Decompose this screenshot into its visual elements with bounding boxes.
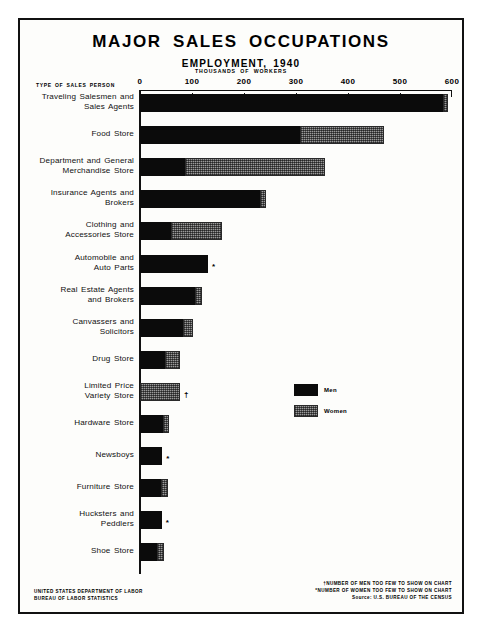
footnotes: †NUMBER OF MEN TOO FEW TO SHOW ON CHART … [315, 581, 452, 602]
bar-footnote-marker: * [166, 519, 169, 527]
bar-segment-men [140, 287, 195, 305]
bar-segment-men [140, 255, 208, 273]
bar-segment-men [140, 222, 171, 240]
bar-footnote-marker: * [166, 455, 169, 463]
category-label-line: Furniture Store [24, 482, 134, 492]
bar-segment-men [140, 126, 300, 144]
category-label: Insurance Agents andBrokers [24, 188, 134, 208]
bar-segment-men [140, 415, 163, 433]
category-label-line: Real Estate Agents [24, 285, 134, 295]
bar-segment-women [157, 543, 164, 561]
category-label-line: Hucksters and [24, 509, 134, 519]
category-label-line: Merchandise Store [24, 166, 134, 176]
bar-segment-men [140, 190, 260, 208]
bar-segment-men [140, 94, 443, 112]
bar-footnote-marker: * [212, 263, 215, 271]
category-label: Food Store [24, 129, 134, 139]
category-label: Hucksters andPeddlers [24, 509, 134, 529]
category-label: Clothing andAccessories Store [24, 220, 134, 240]
agency-line-2: BUREAU OF LABOR STATISTICS [34, 596, 143, 602]
category-label-line: Solicitors [24, 327, 134, 337]
category-label: Department and GeneralMerchandise Store [24, 156, 134, 176]
bar-footnote-marker: † [184, 391, 188, 399]
bar-segment-women [171, 222, 221, 240]
agency-line-1: UNITED STATES DEPARTMENT OF LABOR [34, 589, 143, 595]
bar-segment-women [165, 351, 180, 369]
bar-segment-women [185, 158, 324, 176]
category-label: Traveling Salesmen andSales Agents [24, 92, 134, 112]
bar-segment-men [140, 447, 162, 465]
bar-segment-women [260, 190, 266, 208]
category-label-line: and Brokers [24, 295, 134, 305]
category-label-line: Peddlers [24, 519, 134, 529]
category-label-line: Food Store [24, 129, 134, 139]
category-label-line: Accessories Store [24, 230, 134, 240]
bar-segment-women [163, 415, 168, 433]
category-label-line: Automobile and [24, 253, 134, 263]
bar-segment-men [140, 351, 165, 369]
bar-segment-men [140, 511, 162, 529]
source-note: Source: U.S. BUREAU OF THE CENSUS [315, 594, 452, 602]
category-label: Canvassers andSolicitors [24, 317, 134, 337]
legend-swatch-women [294, 405, 318, 417]
category-label-line: Canvassers and [24, 317, 134, 327]
footnote-dagger: †NUMBER OF MEN TOO FEW TO SHOW ON CHART [315, 581, 452, 588]
category-label: Newsboys [24, 450, 134, 460]
category-label-line: Hardware Store [24, 418, 134, 428]
category-label: Limited PriceVariety Store [24, 381, 134, 401]
bar-segment-women [195, 287, 202, 305]
bar-segment-men [140, 543, 157, 561]
legend-label-men: Men [324, 387, 337, 393]
chart-poster: MAJOR SALES OCCUPATIONS EMPLOYMENT, 1940… [18, 18, 464, 614]
bar-segment-women [300, 126, 384, 144]
plot-area: Traveling Salesmen andSales AgentsFood S… [20, 20, 462, 612]
category-label: Drug Store [24, 354, 134, 364]
bar-segment-men [140, 158, 185, 176]
legend-label-women: Women [324, 408, 347, 414]
category-label-line: Department and General [24, 156, 134, 166]
category-label-line: Sales Agents [24, 102, 134, 112]
bar-segment-women [161, 479, 168, 497]
bar-segment-women [140, 383, 180, 401]
category-label-line: Insurance Agents and [24, 188, 134, 198]
category-label: Furniture Store [24, 482, 134, 492]
category-label-line: Drug Store [24, 354, 134, 364]
category-label-line: Traveling Salesmen and [24, 92, 134, 102]
agency-footer: UNITED STATES DEPARTMENT OF LABOR BUREAU… [34, 589, 143, 602]
category-label-line: Variety Store [24, 391, 134, 401]
category-label: Hardware Store [24, 418, 134, 428]
category-label-line: Auto Parts [24, 263, 134, 273]
category-label-line: Limited Price [24, 381, 134, 391]
category-label-line: Brokers [24, 198, 134, 208]
category-label-line: Shoe Store [24, 546, 134, 556]
bar-segment-women [183, 319, 192, 337]
category-label-line: Clothing and [24, 220, 134, 230]
category-label: Real Estate Agentsand Brokers [24, 285, 134, 305]
footnote-asterisk: *NUMBER OF WOMEN TOO FEW TO SHOW ON CHAR… [315, 588, 452, 595]
category-label: Automobile andAuto Parts [24, 253, 134, 273]
bar-segment-men [140, 319, 183, 337]
category-label-line: Newsboys [24, 450, 134, 460]
bar-segment-men [140, 479, 161, 497]
category-label: Shoe Store [24, 546, 134, 556]
legend-swatch-men [294, 384, 318, 396]
bar-segment-women [443, 94, 448, 112]
